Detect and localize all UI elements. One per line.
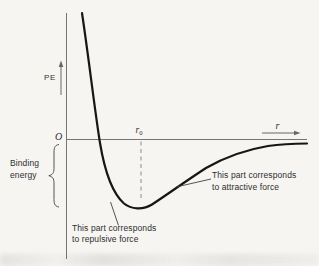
attractive-leader-line <box>176 179 211 187</box>
r-right-arrow-icon <box>262 131 301 136</box>
origin-label: O <box>55 131 62 142</box>
r-axis-label: r <box>276 120 280 131</box>
pe-axis-label: PE <box>44 73 56 82</box>
pe-arrow-head <box>59 61 64 68</box>
attractive-annotation-line2: to attractive force <box>212 182 296 194</box>
binding-energy-line1: Binding <box>10 158 39 170</box>
binding-energy-line2: energy <box>10 170 39 182</box>
attractive-force-annotation: This part corresponds to attractive forc… <box>212 170 296 193</box>
repulsive-annotation-line2: to repulsive force <box>72 234 156 246</box>
repulsive-annotation-line1: This part corresponds <box>72 223 156 235</box>
r0-subscript: 0 <box>139 129 142 136</box>
r-arrow-head <box>294 131 301 136</box>
attractive-annotation-line1: This part corresponds <box>212 170 296 182</box>
potential-energy-diagram: PE O r0 r Binding energy This part corre… <box>0 0 319 266</box>
diagram-canvas <box>0 0 319 266</box>
binding-energy-label: Binding energy <box>10 158 39 181</box>
scan-artifact <box>0 254 319 266</box>
repulsive-force-annotation: This part corresponds to repulsive force <box>72 223 156 246</box>
pe-up-arrow-icon <box>59 61 64 96</box>
binding-energy-brace <box>49 145 59 208</box>
r0-marker-label: r0 <box>136 125 143 135</box>
